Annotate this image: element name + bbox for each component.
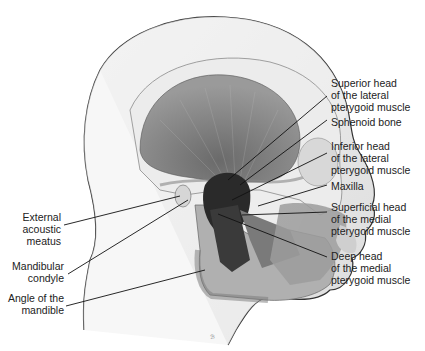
- label-line: Sphenoid bone: [331, 116, 402, 128]
- label-line: Superior head: [331, 77, 410, 89]
- label-line: Mandibular: [12, 260, 64, 272]
- artist-signature: ℬ: [210, 331, 215, 343]
- label-line: condyle: [12, 272, 64, 284]
- anatomy-figure: Superior head of the lateral pterygoid m…: [0, 0, 425, 351]
- label-line: of the medial: [331, 213, 410, 225]
- label-sphenoid-bone: Sphenoid bone: [331, 116, 402, 128]
- label-superior-head-lateral-pterygoid: Superior head of the lateral pterygoid m…: [331, 77, 410, 113]
- label-line: pterygoid muscle: [331, 101, 410, 113]
- label-line: Maxilla: [331, 180, 364, 192]
- label-line: of the lateral: [331, 152, 410, 164]
- label-angle-of-mandible: Angle of the mandible: [8, 292, 64, 316]
- label-line: mandible: [8, 304, 64, 316]
- ear-canal: [175, 185, 191, 207]
- label-deep-head-medial-pterygoid: Deep head of the medial pterygoid muscle: [331, 250, 410, 286]
- label-line: of the lateral: [331, 89, 410, 101]
- label-line: pterygoid muscle: [331, 164, 410, 176]
- label-line: External: [22, 211, 61, 223]
- label-external-acoustic-meatus: External acoustic meatus: [22, 211, 61, 247]
- label-superficial-head-medial-pterygoid: Superficial head of the medial pterygoid…: [331, 201, 410, 237]
- label-line: Deep head: [331, 250, 410, 262]
- label-line: of the medial: [331, 262, 410, 274]
- label-inferior-head-lateral-pterygoid: Inferior head of the lateral pterygoid m…: [331, 140, 410, 176]
- label-line: meatus: [22, 235, 61, 247]
- label-maxilla: Maxilla: [331, 180, 364, 192]
- label-mandibular-condyle: Mandibular condyle: [12, 260, 64, 284]
- label-line: Angle of the: [8, 292, 64, 304]
- label-line: pterygoid muscle: [331, 274, 410, 286]
- label-line: acoustic: [22, 223, 61, 235]
- label-line: Inferior head: [331, 140, 410, 152]
- label-line: pterygoid muscle: [331, 225, 410, 237]
- label-line: Superficial head: [331, 201, 410, 213]
